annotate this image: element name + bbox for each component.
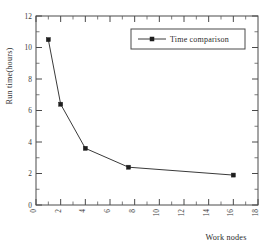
y-tick-label: 0 [28, 201, 32, 210]
x-tick-label: 4 [78, 209, 87, 213]
data-point-marker [46, 38, 50, 42]
data-point-marker [127, 165, 131, 169]
x-axis-title: Work nodes [205, 233, 246, 242]
data-point-marker [231, 173, 235, 177]
x-tick-label: 2 [54, 209, 63, 213]
x-tick-label: 10 [152, 209, 161, 217]
y-tick-label: 8 [28, 75, 32, 84]
series-polyline [48, 40, 233, 175]
data-point-marker [59, 102, 63, 106]
line-chart-svg: 0 2 4 6 8 10 12 0 2 4 6 8 10 12 14 16 18 [0, 0, 272, 247]
legend-sample-marker [150, 37, 154, 41]
y-axis-ticks [36, 16, 42, 205]
series-time-comparison [46, 38, 235, 177]
x-tick-label: 18 [251, 209, 260, 217]
x-axis-ticks [36, 199, 258, 205]
y-axis-title: Run time(hours) [5, 47, 14, 104]
y-tick-label: 10 [25, 43, 33, 52]
x-tick-label: 12 [177, 209, 186, 217]
x-tick-label: 8 [128, 209, 137, 213]
right-axis-ticks [252, 16, 258, 205]
y-tick-label: 6 [28, 106, 32, 115]
x-tick-label: 14 [202, 209, 211, 217]
y-tick-label: 12 [25, 12, 33, 21]
chart-figure: 0 2 4 6 8 10 12 0 2 4 6 8 10 12 14 16 18 [0, 0, 272, 247]
data-point-marker [83, 146, 87, 150]
x-tick-label: 6 [103, 209, 112, 213]
y-tick-label: 2 [28, 169, 32, 178]
chart-legend[interactable]: Time comparison [131, 29, 245, 49]
x-tick-labels: 0 2 4 6 8 10 12 14 16 18 [29, 209, 260, 217]
x-tick-label: 16 [226, 209, 235, 217]
top-axis-ticks [36, 16, 246, 22]
y-tick-label: 4 [28, 138, 32, 147]
y-tick-labels: 0 2 4 6 8 10 12 [25, 12, 33, 210]
x-tick-label: 0 [29, 209, 38, 213]
legend-entry-label: Time comparison [170, 35, 229, 44]
